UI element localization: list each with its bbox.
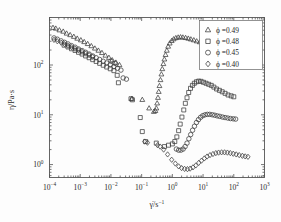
data-point-square [182, 108, 186, 112]
data-point-triangle [164, 48, 169, 52]
data-point-triangle [161, 61, 166, 65]
x-tick-label: 102 [229, 181, 240, 192]
data-point-square [138, 116, 142, 120]
series-triangle [51, 25, 224, 113]
data-point-square [220, 90, 224, 94]
legend-label: ϕ =0.45 [216, 48, 239, 57]
figure-container: 10−410−310−210−1100101102103 102101100 γ… [0, 0, 281, 222]
y-axis-label: η/Pa·s [7, 90, 16, 110]
data-point-triangle [155, 101, 160, 105]
data-point-square [207, 82, 211, 86]
data-point-square [187, 91, 191, 95]
data-point-triangle [157, 83, 162, 87]
data-point-square [175, 135, 179, 139]
data-point-diamond [170, 157, 174, 162]
y-tick-label: 101 [33, 109, 44, 120]
data-point-triangle [162, 57, 167, 61]
legend-label: ϕ =0.48 [216, 37, 239, 46]
data-point-square [183, 101, 187, 105]
x-tick-label: 10−2 [104, 181, 118, 192]
legend-label: ϕ =0.49 [216, 26, 239, 35]
data-point-triangle [160, 66, 165, 70]
data-point-triangle [147, 106, 152, 110]
x-tick-label: 103 [259, 181, 270, 192]
data-point-square [204, 81, 208, 85]
data-point-diamond [165, 152, 169, 157]
scatter-plot: 10−410−310−210−1100101102103 102101100 γ… [0, 0, 281, 222]
x-tick-label: 10−3 [74, 181, 88, 192]
legend: ϕ =0.49ϕ =0.48ϕ =0.45ϕ =0.40 [200, 21, 263, 70]
y-tick-label: 100 [33, 159, 44, 170]
data-point-triangle [159, 72, 164, 76]
data-point-triangle [163, 52, 168, 56]
data-point-square [180, 115, 184, 119]
data-point-circle [188, 132, 192, 136]
x-axis-label: γ̇/s−1 [149, 199, 165, 209]
x-tick-label: 10−1 [135, 181, 149, 192]
data-point-square [178, 122, 182, 126]
data-point-diamond [222, 150, 226, 155]
data-point-square [167, 143, 171, 147]
data-point-square [217, 88, 221, 92]
data-point-triangle [166, 44, 171, 48]
x-axis-tick-labels: 10−410−310−210−1100101102103 [43, 181, 270, 192]
data-point-triangle [158, 77, 163, 81]
x-tick-label: 100 [167, 181, 178, 192]
y-axis-tick-labels: 102101100 [33, 59, 44, 169]
x-tick-label: 101 [198, 181, 209, 192]
data-point-square [185, 96, 189, 100]
data-point-diamond [177, 164, 181, 169]
y-tick-label: 102 [33, 59, 44, 70]
data-point-triangle [156, 95, 161, 99]
data-point-square [140, 130, 144, 134]
data-point-square [116, 81, 120, 85]
data-point-square [177, 129, 181, 133]
x-tick-label: 10−4 [43, 181, 57, 192]
data-point-triangle [156, 89, 161, 93]
data-point-diamond [173, 161, 177, 166]
data-point-triangle [140, 97, 145, 101]
legend-label: ϕ =0.40 [216, 60, 239, 69]
data-point-square [115, 73, 119, 77]
